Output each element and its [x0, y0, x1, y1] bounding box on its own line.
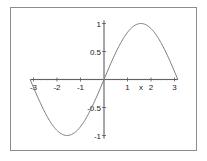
y-tick-label: 1: [97, 20, 102, 29]
y-tick-label: 0.5: [90, 48, 102, 57]
x-tick-label: -1: [77, 83, 85, 92]
x-axis-label: x: [139, 83, 143, 92]
x-tick-label: -2: [53, 83, 61, 92]
sine-plot: -3-2-112310.5-0.5-1 x: [0, 0, 207, 161]
y-tick-label: -1: [94, 132, 102, 141]
x-tick-label: 3: [172, 83, 177, 92]
x-tick-label: 1: [125, 83, 130, 92]
x-tick-label: 2: [149, 83, 154, 92]
